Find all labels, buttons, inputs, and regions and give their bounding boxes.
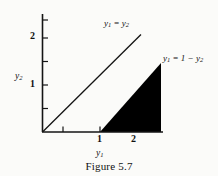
boundary-label-operator: = 1 − (170, 53, 196, 63)
diagonal-label-operator: = (111, 18, 122, 28)
figure-caption: Figure 5.7 (0, 160, 218, 172)
y-axis-ticks (43, 20, 49, 109)
boundary-label-rhs-subscript: 2 (200, 56, 203, 63)
diagonal-label-rhs-subscript: 2 (126, 21, 129, 28)
figure-container: 2 1 1 2 y2 y1 y1 = y2 y1 = 1 − y2 Figure… (0, 0, 218, 176)
y-axis-title: y2 (15, 72, 22, 82)
x-axis-tick-label-2: 2 (131, 134, 136, 144)
x-axis-ticks (63, 127, 100, 133)
x-axis-title: y1 (96, 149, 103, 159)
x-axis-title-subscript: 1 (100, 151, 103, 158)
shaded-triangle (100, 63, 161, 132)
boundary-line-label: y1 = 1 − y2 (163, 54, 203, 64)
x-axis-tick-label-1: 1 (97, 134, 102, 144)
y-axis-title-subscript: 2 (19, 74, 22, 81)
y-axis-tick-label-1: 1 (30, 79, 35, 89)
diagonal-line-label: y1 = y2 (104, 19, 129, 29)
y-axis-tick-label-2: 2 (30, 31, 35, 41)
